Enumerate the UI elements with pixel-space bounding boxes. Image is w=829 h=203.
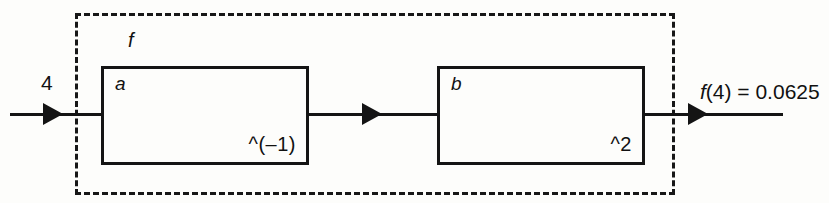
operation-block-b-expression: ^2	[610, 134, 632, 154]
operation-block-b: b ^2	[437, 66, 645, 165]
output-value-text: (4) = 0.0625	[706, 80, 820, 103]
intermediate-arrow-icon	[362, 103, 382, 125]
operation-block-a-expression: ^(–1)	[249, 134, 296, 154]
diagram-canvas: f 4 a ^(–1) b ^2 f(4) = 0.0625	[0, 0, 829, 203]
output-arrow-icon	[688, 103, 708, 125]
operation-block-a: a ^(–1)	[101, 66, 309, 165]
output-value-label: f(4) = 0.0625	[700, 81, 820, 102]
input-arrow-icon	[43, 103, 63, 125]
input-value-label: 4	[41, 72, 53, 93]
output-wire	[645, 113, 783, 116]
operation-block-a-name: a	[115, 74, 126, 93]
operation-block-b-name: b	[451, 74, 462, 93]
function-label-f: f	[128, 30, 134, 50]
